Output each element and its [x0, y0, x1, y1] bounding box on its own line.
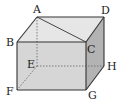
label-G: G — [88, 89, 97, 102]
label-H: H — [107, 60, 117, 73]
label-E: E — [27, 58, 35, 71]
label-D: D — [101, 4, 110, 17]
label-C: C — [87, 43, 95, 56]
label-F: F — [6, 85, 14, 98]
label-A: A — [32, 3, 42, 16]
label-B: B — [6, 36, 14, 49]
cuboid-diagram: A D B C E H F G — [0, 0, 125, 102]
